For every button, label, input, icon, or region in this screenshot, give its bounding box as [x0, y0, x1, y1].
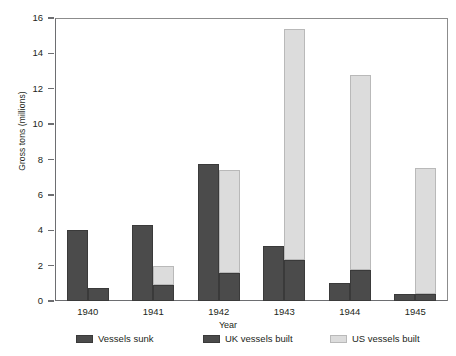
bar-segment-us-vessels-built — [153, 266, 174, 285]
bar-vessels-sunk — [132, 225, 153, 301]
bar-segment-vessels-sunk — [198, 164, 219, 301]
legend-label: US vessels built — [352, 333, 420, 344]
y-tick-label: 12 — [0, 83, 43, 94]
y-tick-mark — [48, 300, 54, 301]
bar-group — [329, 18, 371, 301]
bar-segment-vessels-sunk — [329, 283, 350, 301]
y-tick-label: 8 — [0, 154, 43, 165]
y-tick-mark — [48, 17, 54, 18]
y-tick-mark — [48, 230, 54, 231]
y-tick-mark — [48, 265, 54, 266]
bar-group — [132, 18, 174, 301]
chart-legend: Vessels sunkUK vessels builtUS vessels b… — [0, 333, 456, 351]
legend-label: UK vessels built — [225, 333, 293, 344]
bar-group — [67, 18, 109, 301]
legend-swatch-icon — [203, 335, 220, 343]
bar-segment-uk-vessels-built — [284, 260, 305, 301]
bar-segment-vessels-sunk — [263, 246, 284, 301]
bar-vessels-built — [284, 29, 305, 301]
bar-segment-vessels-sunk — [67, 230, 88, 301]
x-tick-label: 1940 — [55, 306, 121, 317]
bar-segment-uk-vessels-built — [219, 273, 240, 301]
bar-vessels-sunk — [67, 230, 88, 301]
bar-segment-us-vessels-built — [350, 75, 371, 270]
bar-vessels-sunk — [198, 164, 219, 301]
legend-swatch-icon — [76, 335, 93, 343]
x-tick-label: 1943 — [252, 306, 318, 317]
bar-group — [263, 18, 305, 301]
bar-vessels-built — [88, 288, 109, 301]
bar-segment-uk-vessels-built — [415, 294, 436, 301]
legend-item[interactable]: UK vessels built — [203, 333, 293, 344]
legend-label: Vessels sunk — [98, 333, 153, 344]
bar-vessels-built — [153, 266, 174, 301]
bar-segment-us-vessels-built — [219, 170, 240, 273]
bars-layer — [55, 18, 448, 301]
legend-swatch-icon — [330, 335, 347, 343]
bar-segment-vessels-sunk — [394, 294, 415, 301]
x-tick-label: 1942 — [186, 306, 252, 317]
bar-segment-uk-vessels-built — [153, 285, 174, 301]
y-tick-mark — [48, 123, 54, 124]
bar-segment-uk-vessels-built — [88, 288, 109, 301]
bar-vessels-sunk — [263, 246, 284, 301]
bar-segment-uk-vessels-built — [350, 270, 371, 301]
bar-vessels-built — [415, 168, 436, 301]
bar-group — [394, 18, 436, 301]
bar-vessels-sunk — [329, 283, 350, 301]
y-tick-mark — [48, 88, 54, 89]
y-tick-label: 2 — [0, 260, 43, 271]
y-tick-mark — [48, 53, 54, 54]
y-tick-label: 4 — [0, 224, 43, 235]
y-tick-label: 0 — [0, 295, 43, 306]
bar-vessels-built — [219, 170, 240, 301]
y-tick-mark — [48, 194, 54, 195]
legend-item[interactable]: US vessels built — [330, 333, 420, 344]
bar-segment-us-vessels-built — [415, 168, 436, 294]
y-tick-label: 6 — [0, 189, 43, 200]
y-tick-label: 14 — [0, 47, 43, 58]
bar-group — [198, 18, 240, 301]
x-tick-label: 1945 — [383, 306, 449, 317]
x-tick-label: 1941 — [121, 306, 187, 317]
x-tick-label: 1944 — [317, 306, 383, 317]
bar-vessels-built — [350, 75, 371, 301]
y-tick-mark — [48, 159, 54, 160]
y-tick-label: 10 — [0, 118, 43, 129]
bar-segment-vessels-sunk — [132, 225, 153, 301]
bar-vessels-sunk — [394, 294, 415, 301]
legend-item[interactable]: Vessels sunk — [76, 333, 153, 344]
y-tick-label: 16 — [0, 12, 43, 23]
bar-chart: Gross tons (millions) 0246810121416 1940… — [0, 0, 456, 356]
bar-segment-us-vessels-built — [284, 29, 305, 261]
x-axis-title: Year — [0, 320, 456, 330]
